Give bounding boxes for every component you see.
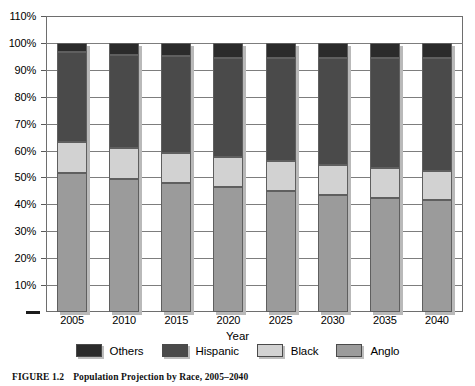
bar-segment-black[interactable] (318, 165, 348, 195)
bar-segment-anglo[interactable] (161, 183, 191, 312)
x-axis: 20052010201520202025203020352040 (46, 314, 463, 330)
figure-container: 10%20%30%40%50%60%70%80%90%100%110% 2005… (0, 0, 475, 386)
figure-caption-text: Population Projection by Race, 2005–2040 (73, 372, 248, 382)
bar-segment-hispanic[interactable] (57, 52, 87, 142)
figure-caption-number: FIGURE 1.2 (12, 372, 64, 382)
legend-label: Hispanic (196, 345, 239, 357)
bar-2030[interactable] (318, 43, 348, 312)
figure-caption: FIGURE 1.2Population Projection by Race,… (12, 372, 472, 382)
bar-segment-anglo[interactable] (318, 195, 348, 312)
legend-label: Anglo (370, 345, 399, 357)
bar-segment-hispanic[interactable] (370, 58, 400, 168)
bar-segment-others[interactable] (370, 43, 400, 58)
bar-segment-others[interactable] (318, 43, 348, 58)
bar-segment-others[interactable] (422, 43, 452, 58)
y-tick-label: 110% (9, 11, 36, 22)
bar-2035[interactable] (370, 43, 400, 312)
bar-segment-others[interactable] (266, 43, 296, 58)
bars-layer (46, 16, 463, 312)
bar-segment-anglo[interactable] (109, 179, 139, 312)
legend-label: Black (291, 345, 319, 357)
y-tick-label: 20% (15, 253, 36, 264)
bar-segment-hispanic[interactable] (213, 58, 243, 158)
bar-segment-hispanic[interactable] (161, 56, 191, 153)
x-tick-label: 2035 (373, 314, 397, 326)
y-tick-label: 50% (15, 172, 36, 183)
y-axis-zero-tick (26, 311, 40, 314)
bar-segment-hispanic[interactable] (318, 58, 348, 166)
y-tick-label: 70% (15, 118, 36, 129)
bar-segment-others[interactable] (109, 43, 139, 55)
legend-label: Others (110, 345, 144, 357)
bar-segment-anglo[interactable] (422, 200, 452, 312)
x-tick-label: 2040 (425, 314, 449, 326)
x-tick-label: 2030 (321, 314, 345, 326)
legend-swatch-others (76, 344, 102, 357)
bar-segment-others[interactable] (213, 43, 243, 58)
bar-2010[interactable] (109, 43, 139, 312)
x-tick-label: 2015 (164, 314, 188, 326)
bar-segment-others[interactable] (161, 43, 191, 56)
bar-segment-hispanic[interactable] (422, 58, 452, 171)
x-tick-label: 2005 (60, 314, 84, 326)
y-tick-label: 60% (15, 145, 36, 156)
plot-area (46, 16, 463, 312)
bar-segment-black[interactable] (109, 148, 139, 179)
bar-segment-others[interactable] (57, 43, 87, 52)
legend-item-hispanic[interactable]: Hispanic (162, 344, 239, 357)
bar-segment-black[interactable] (370, 168, 400, 198)
bar-2020[interactable] (213, 43, 243, 312)
bar-segment-black[interactable] (161, 153, 191, 183)
y-axis: 10%20%30%40%50%60%70%80%90%100%110% (0, 16, 42, 312)
bar-segment-anglo[interactable] (213, 187, 243, 312)
bar-2005[interactable] (57, 43, 87, 312)
bar-segment-anglo[interactable] (57, 173, 87, 312)
x-axis-title: Year (0, 330, 475, 342)
legend-item-anglo[interactable]: Anglo (336, 344, 399, 357)
y-tick-label: 30% (15, 226, 36, 237)
bar-segment-black[interactable] (422, 171, 452, 201)
x-tick-label: 2020 (217, 314, 241, 326)
bar-segment-black[interactable] (266, 161, 296, 191)
legend-item-black[interactable]: Black (257, 344, 319, 357)
y-tick-label: 90% (15, 64, 36, 75)
bar-segment-anglo[interactable] (370, 198, 400, 312)
y-tick-label: 100% (9, 37, 36, 48)
legend-item-others[interactable]: Others (76, 344, 144, 357)
x-tick-label: 2010 (112, 314, 136, 326)
legend-swatch-hispanic (162, 344, 188, 357)
y-tick-label: 10% (15, 280, 36, 291)
bar-segment-black[interactable] (213, 157, 243, 187)
bar-segment-hispanic[interactable] (266, 58, 296, 162)
bar-segment-hispanic[interactable] (109, 55, 139, 148)
legend-swatch-anglo (336, 344, 362, 357)
bar-2040[interactable] (422, 43, 452, 312)
y-tick-label: 40% (15, 199, 36, 210)
legend-swatch-black (257, 344, 283, 357)
x-tick-label: 2025 (269, 314, 293, 326)
chart-legend: OthersHispanicBlackAnglo (0, 344, 475, 357)
bar-2015[interactable] (161, 43, 191, 312)
bar-segment-black[interactable] (57, 142, 87, 173)
bar-2025[interactable] (266, 43, 296, 312)
bar-segment-anglo[interactable] (266, 191, 296, 312)
y-tick-label: 80% (15, 91, 36, 102)
